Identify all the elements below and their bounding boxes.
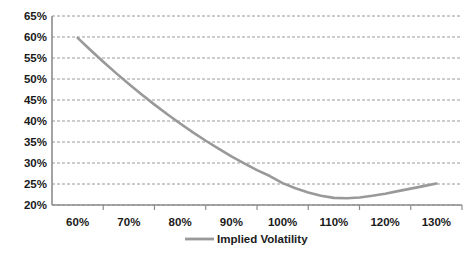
- legend-label-implied-volatility: Implied Volatility: [217, 233, 308, 245]
- implied-volatility-chart: 20%25%30%35%40%45%50%55%60%65% 60%70%80%…: [0, 0, 474, 257]
- y-axis-tick-label: 45%: [24, 94, 47, 106]
- implied-volatility-line: [78, 38, 437, 198]
- y-axis-tick-label: 60%: [24, 31, 47, 43]
- y-axis-tick-label: 50%: [24, 73, 47, 85]
- data-series-group: [78, 38, 437, 198]
- x-axis-tick-labels: 60%70%80%90%100%110%120%130%: [66, 216, 451, 228]
- x-axis-tick-label: 70%: [117, 216, 140, 228]
- y-axis-tick-label: 35%: [24, 136, 47, 148]
- x-axis-tick-label: 60%: [66, 216, 89, 228]
- y-axis-tick-label: 65%: [24, 10, 47, 22]
- x-axis-tick-label: 130%: [422, 216, 451, 228]
- y-axis-tick-label: 25%: [24, 178, 47, 190]
- y-axis-tick-label: 55%: [24, 52, 47, 64]
- y-axis-tick-label: 30%: [24, 157, 47, 169]
- y-axis-tick-label: 40%: [24, 115, 47, 127]
- x-axis-tick-label: 120%: [370, 216, 399, 228]
- x-axis-tick-label: 90%: [220, 216, 243, 228]
- x-axis-tick-label: 80%: [169, 216, 192, 228]
- x-axis-tick-label: 110%: [319, 216, 348, 228]
- y-axis-tick-label: 20%: [24, 199, 47, 211]
- chart-canvas: 20%25%30%35%40%45%50%55%60%65% 60%70%80%…: [0, 0, 474, 257]
- legend: Implied Volatility: [185, 233, 308, 245]
- y-axis-tick-labels: 20%25%30%35%40%45%50%55%60%65%: [24, 10, 47, 211]
- gridlines: [52, 16, 462, 205]
- x-axis-tick-label: 100%: [268, 216, 297, 228]
